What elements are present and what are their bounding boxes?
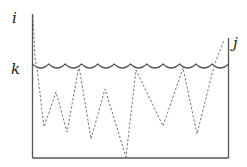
label-i: i: [12, 9, 17, 27]
diagram-figure: i k j: [0, 0, 247, 167]
label-j: j: [230, 34, 238, 52]
label-k: k: [11, 60, 20, 78]
dashed-path: [33, 16, 224, 157]
scalloped-line: [33, 64, 229, 68]
